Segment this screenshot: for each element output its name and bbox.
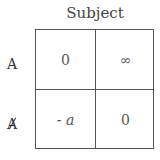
row-label-not-a: A — [4, 116, 20, 132]
row-label-text: A — [7, 116, 17, 132]
cell-r1-c2: ∞ — [96, 30, 155, 89]
cell-r1-c1: 0 — [36, 30, 95, 89]
row-label-text: A — [7, 56, 17, 72]
payoff-matrix: 0 ∞ - a 0 — [35, 29, 154, 149]
row-label-a: A — [4, 56, 20, 72]
cell-r2-c1: - a — [36, 90, 95, 149]
cell-r2-c2: 0 — [96, 90, 155, 149]
matrix-title: Subject — [35, 4, 155, 22]
